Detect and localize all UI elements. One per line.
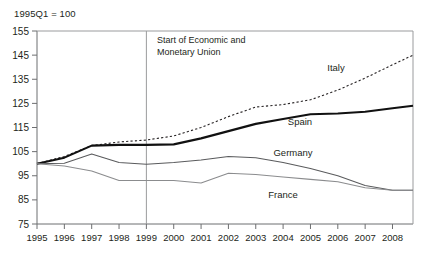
y-tick-label: 115	[13, 122, 29, 133]
x-tick-label: 2005	[300, 232, 321, 243]
x-tick-label: 2000	[163, 232, 184, 243]
y-tick-label: 145	[12, 50, 29, 61]
series-line-germany	[37, 154, 413, 190]
series-label-france: France	[268, 189, 298, 200]
x-tick-label: 1997	[81, 232, 102, 243]
chart-container: 1995Q1 = 100 758595105115125135145155 19…	[0, 0, 426, 265]
x-tick-label: 2007	[355, 232, 376, 243]
series-line-france	[37, 164, 413, 191]
y-axis-ticks: 758595105115125135145155	[12, 26, 37, 230]
y-tick-label: 85	[18, 194, 30, 205]
x-tick-label: 1996	[54, 232, 75, 243]
series-line-italy	[37, 55, 413, 164]
series-label-germany: Germany	[273, 147, 312, 158]
x-tick-label: 2004	[273, 232, 294, 243]
y-tick-label: 155	[12, 26, 29, 37]
y-tick-label: 135	[12, 74, 29, 85]
emu-annotation-line2: Monetary Union	[157, 47, 221, 57]
emu-annotation-line1: Start of Economic and	[157, 35, 246, 45]
x-tick-label: 1998	[108, 232, 129, 243]
series-label-spain: Spain	[288, 116, 312, 127]
x-tick-label: 2001	[191, 232, 212, 243]
x-tick-label: 2008	[382, 232, 403, 243]
x-tick-label: 2002	[218, 232, 239, 243]
y-tick-label: 75	[18, 219, 30, 230]
x-tick-label: 1995	[26, 232, 47, 243]
x-tick-label: 1999	[136, 232, 157, 243]
y-tick-label: 95	[18, 170, 30, 181]
series-label-italy: Italy	[327, 62, 345, 73]
x-axis-ticks: 1995199619971998199920002001200220032004…	[26, 224, 403, 243]
line-chart-svg: 758595105115125135145155 199519961997199…	[0, 0, 426, 265]
y-tick-label: 125	[12, 98, 29, 109]
x-tick-label: 2006	[327, 232, 348, 243]
plot-area: 758595105115125135145155 199519961997199…	[0, 0, 426, 265]
x-tick-label: 2003	[245, 232, 266, 243]
y-tick-label: 105	[12, 146, 29, 157]
